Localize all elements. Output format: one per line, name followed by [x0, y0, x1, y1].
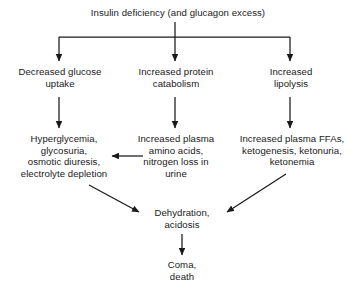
- node-dehydration-acidosis: Dehydration, acidosis: [133, 207, 231, 230]
- node-decreased-glucose-uptake: Decreased glucose uptake: [0, 66, 120, 89]
- node-coma-death: Coma, death: [133, 259, 231, 282]
- edge-hyperglycemia-to-dehydration: [89, 185, 139, 212]
- node-increased-plasma-ffas: Increased plasma FFAs, ketogenesis, keto…: [228, 133, 356, 168]
- node-increased-lipolysis: Increased lipolysis: [232, 66, 350, 89]
- node-increased-plasma-amino-acids: Increased plasma amino acids, nitrogen l…: [116, 133, 236, 179]
- edge-plasma-ffas-to-dehydration: [227, 174, 286, 212]
- node-increased-protein-catabolism: Increased protein catabolism: [116, 66, 236, 89]
- node-hyperglycemia-glycosuria: Hyperglycemia, glycosuria, osmotic diure…: [0, 133, 128, 179]
- flowchart-diabetic-ketoacidosis: Insulin deficiency (and glucagon excess)…: [0, 0, 356, 303]
- node-insulin-deficiency: Insulin deficiency (and glucagon excess): [0, 7, 356, 19]
